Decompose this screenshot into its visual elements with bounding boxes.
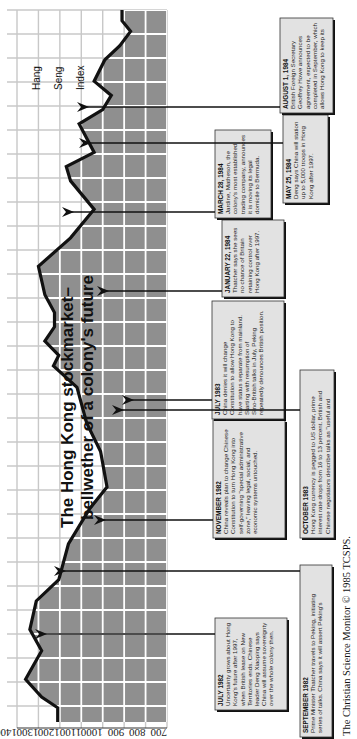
annotation-text-line: Hong Kong currency is pegged to US dolla… [309,396,316,534]
y-tick-label: 700 [150,727,167,739]
annotation-text-line: Thatcher says she sees [231,228,238,293]
y-axis-label-line: Seng [53,67,64,90]
annotation-text-line: Prime Minister Thatcher travels to Pekin… [309,593,316,733]
y-tick-label: 1200 [37,727,60,739]
annotation-text-line: Chinese negotiators describe talks as "u… [324,398,331,534]
arrowhead-icon [62,207,74,217]
y-tick-label: 800 [129,727,146,739]
y-axis-ticks: 14001300120011001000900800700 [0,727,167,739]
annotation-text-line: over the whole colony then. [267,630,274,706]
annotation-text-line: allows Hong Kong to keep its [318,29,325,109]
y-tick-label: 1100 [59,727,81,739]
annotation-text-line: Sino-British talks in July, Peking [250,327,257,415]
annotation-text-line: Constitution to turn Hong Kong into [229,437,236,534]
annotation-text-line: it is moving its legal [246,160,253,214]
annotation-date: SEPTEMBER 1982 [302,677,309,733]
annotation-text-line: self-governing "special administrative [237,432,244,534]
annotation-text-line: completed in September, which [311,22,318,109]
annotation-text-line: economic systems untouched. [251,450,258,534]
y-tick-label: 1300 [16,727,39,739]
annotation-text-line: Kong after 1997. [307,153,314,199]
chart-title: The Hong Kong stockmarket– [58,287,77,528]
annotation-text-line: series of talks. China says it will asse… [316,603,323,733]
annotation-text-line: Kong's future after 1997, [231,638,238,706]
annotation-text-line: trading company, announces [239,135,246,214]
annotation-text-line: Geoffrey Howe announces [296,36,303,109]
chart-subtitle: bellwether of a colony's future [78,275,97,520]
annotation-text-line: repeatedly denounces British position. [257,310,264,415]
annotation-date: OCTOBER 1983 [302,486,309,534]
chart-container: 14001300120011001000900800700 The Hong K… [0,0,357,739]
annotation-text-line: British Foreign Secretary [289,40,296,109]
annotation-text-line: leader Deng Xiaoping says [253,632,260,706]
annotation-text-line: Deng says China will station [292,121,299,199]
annotation-text-line: China reveals plan to change Chinese [222,429,229,534]
annotation-text-line: Territories ends. Chinese [246,637,253,706]
arrowhead-icon [77,102,89,112]
annotation-text-line: retaining control over [246,235,253,293]
annotation-text-line: have status separate from mainland. [236,315,243,415]
annotation-text-line: colony's most established [231,143,238,214]
y-axis-label-line: Index [75,66,86,90]
annotation-text-line: China will assume sovereignty [260,622,267,706]
annotation-text-line: when British lease on New [239,633,246,707]
annotation-text-line: China denies it will change [221,341,228,415]
annotation-text-line: Constitution to allow Hong Kong to [228,320,235,415]
y-tick-label: 1000 [80,727,102,739]
credit-line: The Christian Science Monitor © 1985 TCS… [341,536,352,736]
annotation-text-line: no chance of Britain [238,238,245,293]
title-block: The Hong Kong stockmarket– bellwether of… [58,275,97,528]
annotation-text-line: agreement, expected to be [304,35,311,109]
y-axis-label-line: Hang [31,66,42,90]
annotation-text-line: interest rate drops from 16 to 13 percen… [316,390,323,534]
annotation-text-line: Uncertainty grows about Hong [224,622,231,706]
annotation-text-line: Hong Kong after 1997. [253,230,260,293]
annotation-date: JULY 1982 [217,674,224,706]
annotation-text-line: up to 5,000 troops in Hong [299,126,306,199]
y-axis-label: Hang Seng Index [31,66,86,90]
y-tick-label: 1400 [0,727,17,739]
annotation-date: NOVEMBER 1982 [215,481,222,534]
annotation-text-line: domicile to Bermuda. [253,156,260,214]
hang-seng-chart: 14001300120011001000900800700 The Hong K… [0,0,357,739]
annotation-text-line: Starting with resumption of [243,341,250,415]
annotation-text-line: zone," leaving legal, social, and [244,447,251,534]
y-tick-label: 900 [107,727,124,739]
annotation-text-line: Jardine, Matheson, the [224,150,231,214]
